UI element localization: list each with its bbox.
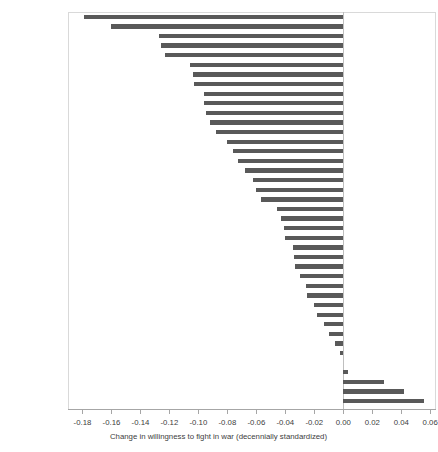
bar xyxy=(306,284,344,288)
bar xyxy=(194,82,343,86)
bar-row: Serbia xyxy=(68,60,436,70)
bar xyxy=(281,216,343,220)
bar xyxy=(285,236,343,240)
bar-row: Russia xyxy=(68,348,436,358)
bar xyxy=(210,120,343,124)
bar-row: Norway xyxy=(68,320,436,330)
bar-row: Lithuania xyxy=(68,108,436,118)
x-tick-label: -0.12 xyxy=(161,418,179,427)
bar-row: Argentina xyxy=(68,358,436,368)
bar-row: Poland xyxy=(68,118,436,128)
x-tick xyxy=(256,410,257,414)
bar xyxy=(161,43,344,47)
x-tick-label: 0.06 xyxy=(423,418,438,427)
bar-row: France xyxy=(68,396,436,406)
plot-area: BulgariaEstoniaChileRomaniaUkraineSerbia… xyxy=(68,12,436,410)
x-tick xyxy=(314,410,315,414)
bar xyxy=(159,34,343,38)
bar xyxy=(277,207,344,211)
x-tick-label: -0.14 xyxy=(132,418,150,427)
x-tick xyxy=(285,410,286,414)
x-tick xyxy=(169,410,170,414)
x-tick-label: -0.10 xyxy=(190,418,208,427)
bar xyxy=(204,92,343,96)
bar xyxy=(227,140,343,144)
bar xyxy=(233,149,343,153)
x-tick-label: 0.04 xyxy=(394,418,409,427)
x-tick-label: -0.02 xyxy=(305,418,323,427)
bar xyxy=(284,226,343,230)
bar-row: Turkey xyxy=(68,377,436,387)
bar-row: Germany (West) xyxy=(68,281,436,291)
x-tick-label: -0.16 xyxy=(103,418,121,427)
x-tick xyxy=(82,410,83,414)
bar xyxy=(295,264,343,268)
bar xyxy=(343,389,404,393)
bar-row: Chile xyxy=(68,31,436,41)
bar xyxy=(340,351,343,355)
x-tick xyxy=(140,410,141,414)
x-tick-label: -0.06 xyxy=(247,418,265,427)
x-tick xyxy=(430,410,431,414)
bar-row: Estonia xyxy=(68,22,436,32)
bar-row: Netherlands xyxy=(68,262,436,272)
bar xyxy=(204,101,343,105)
bar-row: Slovenia xyxy=(68,70,436,80)
x-tick-label: -0.04 xyxy=(276,418,294,427)
bar-row: Canada xyxy=(68,310,436,320)
x-axis-title: Change in willingness to fight in war (d… xyxy=(0,432,437,441)
bar-row: Bulgaria xyxy=(68,12,436,22)
bar-row: Taiwan xyxy=(68,368,436,378)
bar-row: Mexico xyxy=(68,339,436,349)
x-tick-label: 0.02 xyxy=(365,418,380,427)
bar xyxy=(256,188,343,192)
bar-row: Australia xyxy=(68,214,436,224)
bar xyxy=(111,24,343,28)
bar-row: Finland xyxy=(68,300,436,310)
bar-row: Austria xyxy=(68,89,436,99)
x-tick xyxy=(343,410,344,414)
bar-row: Brazil xyxy=(68,195,436,205)
bar-row: Moldova xyxy=(68,98,436,108)
bar xyxy=(343,380,384,384)
bar-rows: BulgariaEstoniaChileRomaniaUkraineSerbia… xyxy=(68,12,436,410)
bar xyxy=(216,130,343,134)
bar-row: New Zealand xyxy=(68,291,436,301)
bar xyxy=(193,72,344,76)
bar xyxy=(294,255,343,259)
bar-row: South Africa xyxy=(68,271,436,281)
bar-row: Italy xyxy=(68,387,436,397)
bar-row: Romania xyxy=(68,41,436,51)
bar xyxy=(324,322,343,326)
bar-row: Belarus xyxy=(68,156,436,166)
bar xyxy=(307,293,343,297)
bar-row: United Kingdom xyxy=(68,243,436,253)
bar-row: China xyxy=(68,185,436,195)
bar xyxy=(238,159,344,163)
bar xyxy=(343,370,347,374)
bar-row: Spain xyxy=(68,137,436,147)
bar xyxy=(343,399,424,403)
bar xyxy=(245,168,344,172)
bar-row: Ukraine xyxy=(68,50,436,60)
x-tick xyxy=(401,410,402,414)
bar xyxy=(317,313,343,317)
bar xyxy=(293,245,344,249)
bar xyxy=(84,15,343,19)
bar-row: India xyxy=(68,175,436,185)
bar-row: Switzerland xyxy=(68,166,436,176)
bar-row: United States xyxy=(68,204,436,214)
bar xyxy=(206,111,344,115)
bar xyxy=(253,178,343,182)
bar-row: Hungary xyxy=(68,252,436,262)
bar xyxy=(261,197,344,201)
bar-row: Uruguay xyxy=(68,233,436,243)
x-tick xyxy=(198,410,199,414)
x-tick xyxy=(372,410,373,414)
x-tick xyxy=(111,410,112,414)
x-tick xyxy=(227,410,228,414)
bar-row: South Korea xyxy=(68,147,436,157)
bar-row: Nigeria xyxy=(68,79,436,89)
bar xyxy=(335,341,344,345)
